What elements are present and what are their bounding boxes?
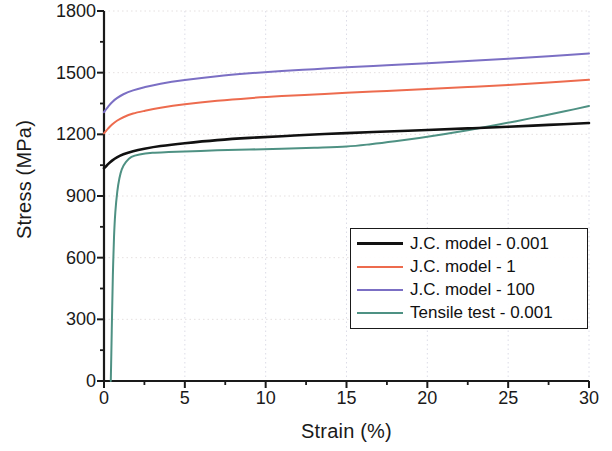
x-axis-title: Strain (%) xyxy=(104,420,589,443)
legend-line-swatch xyxy=(357,312,403,314)
legend-line-swatch xyxy=(357,242,403,245)
x-tick-label: 0 xyxy=(79,389,129,407)
x-tick-label: 15 xyxy=(322,389,372,407)
x-tick-label: 10 xyxy=(241,389,291,407)
legend-item-label: J.C. model - 100 xyxy=(410,281,535,298)
stress-strain-chart: Stress (MPa) Strain (%) 0300600900120015… xyxy=(0,0,612,451)
y-tick-label: 1800 xyxy=(38,2,96,20)
y-tick-label: 0 xyxy=(38,372,96,390)
chart-legend: J.C. model - 0.001J.C. model - 1J.C. mod… xyxy=(350,228,588,329)
y-tick-label: 900 xyxy=(38,187,96,205)
legend-item-label: J.C. model - 1 xyxy=(410,258,516,275)
legend-item-label: J.C. model - 0.001 xyxy=(410,235,549,252)
legend-item-label: Tensile test - 0.001 xyxy=(410,304,553,321)
legend-item: J.C. model - 0.001 xyxy=(357,232,581,255)
y-tick-label: 600 xyxy=(38,249,96,267)
legend-line-swatch xyxy=(357,266,403,268)
y-tick-label: 1500 xyxy=(38,64,96,82)
y-tick-label: 300 xyxy=(38,310,96,328)
legend-line-swatch xyxy=(357,289,403,291)
x-tick-label: 30 xyxy=(564,389,612,407)
x-tick-label: 25 xyxy=(483,389,533,407)
y-tick-label: 1200 xyxy=(38,125,96,143)
y-axis-title: Stress (MPa) xyxy=(13,60,36,300)
x-tick-label: 20 xyxy=(402,389,452,407)
legend-item: J.C. model - 1 xyxy=(357,255,581,278)
x-tick-label: 5 xyxy=(160,389,210,407)
legend-item: J.C. model - 100 xyxy=(357,278,581,301)
legend-item: Tensile test - 0.001 xyxy=(357,301,581,324)
